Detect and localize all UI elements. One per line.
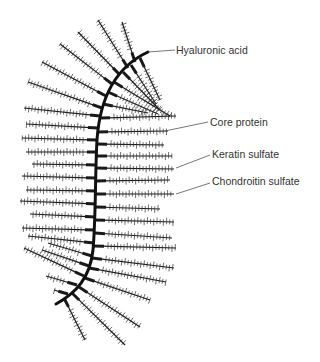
- proteoglycan-monomer: [72, 293, 126, 345]
- proteoglycan-monomer: [59, 42, 112, 84]
- proteoglycan-monomer: [46, 273, 77, 285]
- leader-line-hyaluronic-acid: [148, 50, 175, 52]
- proteoglycan-monomer: [114, 82, 171, 118]
- label-core-protein: Core protein: [210, 116, 268, 128]
- proteoglycan-monomer: [20, 197, 96, 207]
- proteoglycan-monomer: [53, 288, 68, 294]
- proteoglycan-monomer: [97, 140, 164, 149]
- proteoglycan-monomer: [94, 242, 176, 252]
- proteoglycan-monomer: [30, 210, 95, 220]
- proteoglycan-monomer: [92, 256, 174, 272]
- leader-line-chondroitin-sulfate: [176, 183, 210, 194]
- proteoglycan-monomer: [95, 216, 174, 226]
- proteoglycan-monomer: [97, 152, 172, 160]
- proteoglycan-monomer: [96, 176, 170, 185]
- label-keratin-sulfate: Keratin sulfate: [212, 148, 279, 160]
- proteoglycan-monomer: [26, 148, 97, 156]
- proteoglycan-monomer: [28, 78, 102, 108]
- proteoglycan-monomer: [103, 103, 148, 116]
- proteoglycan-monomer: [42, 246, 89, 266]
- leader-line-keratin-sulfate: [176, 155, 210, 168]
- leader-line-core-protein: [165, 122, 208, 131]
- hyaluronic-acid-backbone: [56, 52, 148, 304]
- gag-side-chains: [20, 20, 176, 346]
- proteoglycan-monomer: [26, 120, 98, 131]
- proteoglycan-monomer: [22, 134, 97, 143]
- proteoglycan-monomer: [95, 230, 172, 242]
- label-chondroitin-sulfate: Chondroitin sulfate: [212, 175, 300, 187]
- proteoglycan-monomer: [96, 190, 174, 198]
- proteoglycan-monomer: [41, 60, 106, 96]
- proteoglycan-monomer: [32, 160, 96, 169]
- label-hyaluronic-acid: Hyaluronic acid: [176, 44, 248, 56]
- proteoglycan-monomer: [24, 105, 100, 119]
- proteoglycan-monomer: [77, 30, 120, 75]
- proteoglycan-monomer: [98, 127, 168, 136]
- proteoglycan-monomer: [22, 172, 96, 181]
- proteoglycan-monomer: [22, 224, 95, 234]
- proteoglycan-monomer: [120, 22, 135, 62]
- proteoglycan-monomer: [28, 233, 94, 246]
- proteoglycan-monomer: [26, 186, 96, 195]
- proteoglycan-monomer: [97, 164, 174, 173]
- label-leader-lines: [148, 50, 210, 194]
- proteoglycan-monomer: [96, 203, 160, 212]
